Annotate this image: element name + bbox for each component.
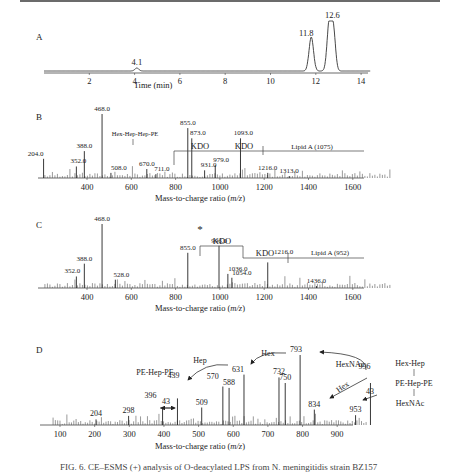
- d-43-label-a: 43: [162, 397, 170, 406]
- a-peak-label-4-1: 4.1: [132, 57, 143, 67]
- b-peak-label: 1093.0: [234, 129, 254, 137]
- d-x-ticks: 100200300400500600700800900: [54, 425, 344, 439]
- d-tick-label: 700: [262, 429, 275, 439]
- d-peak-label: 570: [207, 372, 219, 381]
- b-x-ticks: 4006008001000120014001600: [81, 178, 362, 192]
- b-noise-peaks: [45, 166, 390, 178]
- d-peak-label: 953: [350, 405, 362, 414]
- a-tick-label: 14: [357, 76, 366, 86]
- a-peak-label-12-6: 12.6: [325, 10, 340, 20]
- c-tick-label: 1400: [300, 292, 317, 302]
- a-electropherogram-trace: [44, 21, 370, 71]
- b-tick-label: 400: [81, 182, 94, 192]
- c-tick-label: 1600: [344, 292, 361, 302]
- d-peak-label: 509: [196, 398, 208, 407]
- d-pe-hep-pe-label: PE-Hep-PE: [136, 368, 173, 377]
- panel-c: C 352.0388.0468.0528.0855.0996.01036.010…: [36, 215, 390, 313]
- b-tick-label: 1600: [344, 182, 361, 192]
- b-xlabel: Mass-to-charge ratio (m/z): [155, 193, 245, 203]
- a-tick-label: 6: [178, 76, 182, 86]
- d-tick-label: 200: [88, 429, 101, 439]
- d-tick-label: 900: [331, 429, 344, 439]
- c-tick-label: 800: [169, 292, 182, 302]
- panel-b: B 204.0352.0388.0468.0508.0670.0711.0855…: [28, 105, 390, 203]
- d-tick-label: 100: [54, 429, 67, 439]
- d-peak-label: 396: [145, 391, 157, 400]
- d-peak-label: 631: [232, 365, 244, 374]
- c-tick-label: 1200: [256, 292, 273, 302]
- d-peak-label: 588: [223, 378, 235, 387]
- c-kdo-label-1: KDO: [213, 236, 231, 246]
- c-peak-label: 528.0: [113, 271, 129, 279]
- b-tick-label: 1400: [300, 182, 317, 192]
- b-tick-label: 600: [125, 182, 138, 192]
- d-peak-label: 204: [90, 409, 102, 418]
- d-peak-label: 834: [308, 400, 320, 409]
- c-kdo-label-2: KDO: [256, 248, 274, 258]
- panel-a: A 2468101214 Time (min) 4.1 11.8 12.6: [36, 10, 370, 90]
- c-peak-label: 855.0: [180, 244, 196, 252]
- b-tick-label: 1200: [256, 182, 273, 192]
- b-peak-label: 873.0: [190, 129, 206, 137]
- c-noise-peaks: [45, 276, 390, 288]
- c-star-marker: *: [197, 223, 203, 235]
- d-hex-diag-label: Hex: [335, 379, 351, 394]
- b-kdo-label-2: KDO: [235, 141, 253, 151]
- c-xlabel: Mass-to-charge ratio (m/z): [155, 303, 245, 313]
- c-kdo-box: [200, 246, 243, 258]
- c-tick-label: 400: [81, 292, 94, 302]
- d-labeled-peaks: 2042983964395095705886317327507938349539…: [90, 345, 370, 425]
- c-peak-label: 388.0: [76, 255, 92, 263]
- figure-canvas: A 2468101214 Time (min) 4.1 11.8 12.6 B …: [0, 0, 456, 472]
- d-structure-hexnac: HexNAc: [396, 399, 425, 408]
- b-peak-label: 855.0: [180, 119, 196, 127]
- d-tick-label: 400: [158, 429, 171, 439]
- d-tick-label: 600: [227, 429, 240, 439]
- a-tick-label: 12: [312, 76, 321, 86]
- d-tick-label: 800: [296, 429, 309, 439]
- b-peak-label: 711.0: [154, 165, 170, 173]
- d-tick-label: 300: [123, 429, 136, 439]
- d-tick-label: 500: [192, 429, 205, 439]
- b-tick-label: 800: [169, 182, 182, 192]
- a-tick-label: 10: [266, 76, 275, 86]
- c-peak-label: 1054.0: [232, 269, 252, 277]
- c-tick-label: 600: [125, 292, 138, 302]
- d-structure-hex-hep: Hex-Hep: [395, 359, 424, 368]
- b-peak-label: 508.0: [111, 164, 127, 172]
- b-lipid-a-label: Lipid A (1075): [291, 143, 333, 151]
- panel-letter-c: C: [36, 220, 42, 230]
- d-peak-label: 298: [123, 406, 135, 415]
- panel-letter-a: A: [36, 32, 43, 42]
- a-peak-label-11-8: 11.8: [299, 28, 314, 38]
- c-tick-label: 1000: [211, 292, 228, 302]
- b-kdo-label-1: KDO: [191, 141, 209, 151]
- panel-letter-b: B: [36, 112, 42, 122]
- a-tick-label: 8: [223, 76, 227, 86]
- d-peak-label: 793: [290, 345, 302, 354]
- panel-letter-d: D: [36, 345, 43, 355]
- c-peak-label: 468.0: [94, 215, 110, 223]
- d-hexnac-label: HexNAc: [336, 360, 365, 369]
- b-labeled-peaks: 204.0352.0388.0468.0508.0670.0711.0855.0…: [28, 105, 300, 178]
- panel-d: D 20429839643950957058863173275079383495…: [36, 345, 433, 451]
- a-xlabel: Time (min): [134, 80, 173, 90]
- b-peak-label: 979.0: [213, 156, 229, 164]
- figure-caption: FIG. 6. CE–ESMS (+) analysis of O-deacyl…: [60, 462, 456, 472]
- d-structure-pe-hep-pe: PE-Hep-PE: [395, 379, 432, 388]
- b-peak-label: 204.0: [28, 150, 44, 158]
- c-lipid-a-label: Lipid A (952): [311, 249, 350, 257]
- b-peak-label: 468.0: [94, 105, 110, 113]
- b-tick-label: 1000: [211, 182, 228, 192]
- d-43-label-b: 43: [366, 387, 374, 396]
- b-peak-label: 1216.0: [258, 164, 278, 172]
- c-peak-label: 1216.0: [274, 248, 294, 256]
- b-peak-label: 388.0: [76, 142, 92, 150]
- a-tick-label: 2: [87, 76, 91, 86]
- c-labeled-peaks: 352.0388.0468.0528.0855.0996.01036.01054…: [64, 215, 326, 288]
- d-xlabel: Mass-to-charge ratio (m/z): [155, 441, 245, 451]
- c-x-ticks: 4006008001000120014001600: [81, 288, 362, 302]
- d-peak-label: 750: [279, 373, 291, 382]
- c-peak-label: 352.0: [64, 267, 80, 275]
- c-peak-label: 1436.0: [307, 277, 327, 285]
